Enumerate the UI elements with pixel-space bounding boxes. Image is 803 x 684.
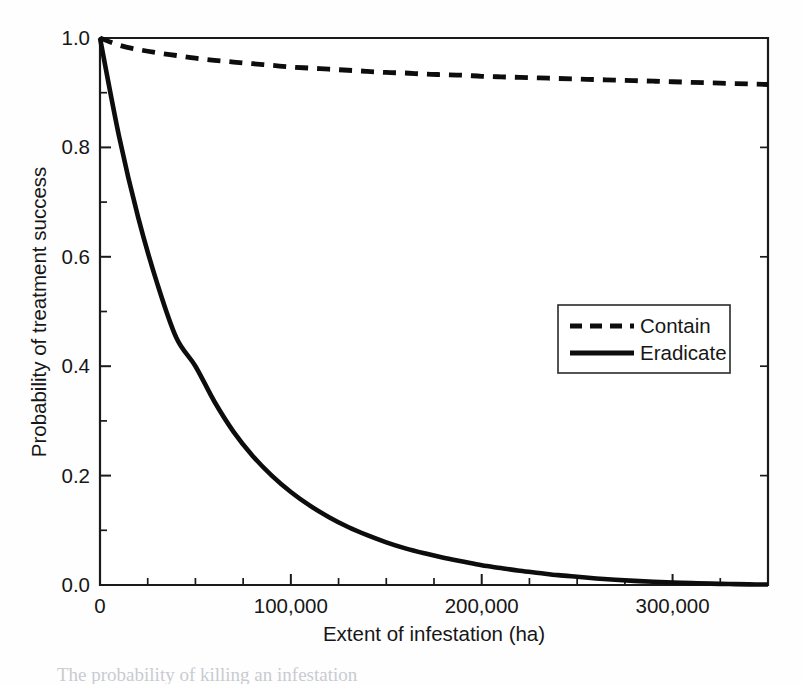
y-tick-label: 0.0 — [62, 573, 91, 596]
x-tick-label: 300,000 — [636, 594, 710, 617]
figure-container: 0100,000200,000300,000 0.00.20.40.60.81.… — [0, 0, 803, 684]
chart-legend: ContainEradicate — [558, 305, 730, 373]
y-tick-label: 0.2 — [62, 464, 91, 487]
legend-label-contain: Contain — [640, 314, 711, 337]
legend-label-eradicate: Eradicate — [640, 341, 727, 364]
x-tick-label: 0 — [94, 594, 105, 617]
x-tick-label: 100,000 — [254, 594, 328, 617]
probability-of-treatment-success-chart: 0100,000200,000300,000 0.00.20.40.60.81.… — [0, 0, 803, 684]
y-tick-label: 0.8 — [62, 135, 91, 158]
y-tick-label: 0.4 — [62, 354, 91, 377]
x-tick-label: 200,000 — [445, 594, 519, 617]
y-tick-label: 0.6 — [62, 245, 91, 268]
y-axis-tick-labels: 0.00.20.40.60.81.0 — [62, 26, 91, 596]
figure-caption: The probability of killing an infestatio… — [57, 664, 358, 684]
y-tick-label: 1.0 — [62, 26, 91, 49]
x-axis-title: Extent of infestation (ha) — [323, 622, 545, 645]
y-axis-title: Probability of treatment success — [27, 167, 50, 458]
x-axis-tick-labels: 0100,000200,000300,000 — [94, 594, 709, 617]
